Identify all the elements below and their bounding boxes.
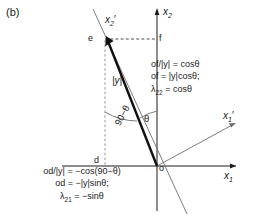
equation-od-value: od = −|y|sinθ;: [8, 178, 156, 189]
vector-magnitude-label: |y|: [112, 75, 122, 88]
equation-block-x1-projection: od/|y| = −cos(90−θ) od = −|y|sinθ; λ21 =…: [8, 166, 156, 204]
axis-label-x1-prime: x1′: [223, 110, 234, 125]
equation-lambda22: λ22 = cosθ: [151, 84, 199, 97]
vector-projection-figure: (b) x2 x1 x1′ x2′ e f d o |y| θ 90−θ of/…: [0, 0, 256, 215]
angle-theta-label: θ: [144, 113, 149, 125]
x1-axis-arrowhead: [230, 164, 236, 169]
axis-label-x1-sub: 1: [229, 176, 233, 183]
lambda22-tail: = cosθ: [163, 84, 192, 94]
axis-label-x1-prime-mark: ′: [232, 110, 234, 121]
lambda21-tail: = −sinθ: [72, 191, 104, 201]
x1-prime-axis-line: [157, 123, 236, 166]
axis-label-x1: x1: [224, 170, 233, 185]
point-label-f: f: [159, 33, 162, 44]
equation-block-x2-projection: of/|y| = cosθ of = |y|cosθ; λ22 = cosθ: [151, 59, 199, 97]
equation-lambda21: λ21 = −sinθ: [8, 191, 156, 204]
equation-od-over-y: od/|y| = −cos(90−θ): [8, 166, 156, 177]
panel-tag: (b): [6, 6, 19, 20]
point-label-d: d: [94, 155, 99, 166]
x2-axis-arrowhead: [155, 8, 160, 15]
equation-of-over-y: of/|y| = cosθ: [151, 59, 199, 70]
axis-label-x2-prime-mark: ′: [114, 14, 116, 25]
lambda21-subscript: 21: [65, 195, 72, 202]
point-label-e: e: [88, 33, 93, 44]
axis-label-x2: x2: [163, 6, 172, 21]
vector-y: [105, 36, 157, 166]
axis-label-x2-prime: x2′: [105, 14, 116, 29]
equation-of-value: of = |y|cosθ;: [151, 71, 199, 82]
axis-label-x2-sub: 2: [168, 12, 172, 19]
point-label-o: o: [159, 163, 164, 174]
lambda22-subscript: 22: [156, 88, 163, 95]
